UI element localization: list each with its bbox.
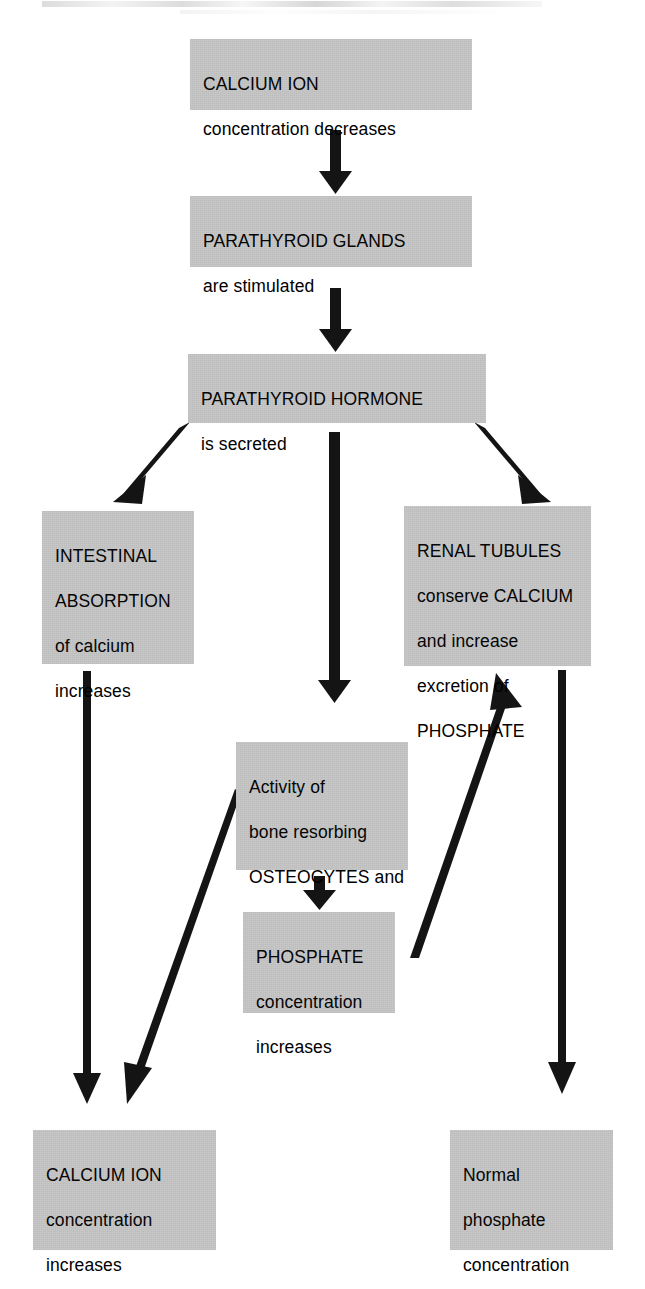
node-line: excretion of [417, 675, 591, 698]
node-parathyroid-glands-are-stimulated: PARATHYROID GLANDS are stimulated [190, 196, 472, 267]
node-line: are stimulated [203, 275, 472, 298]
node-line: concentration [46, 1209, 216, 1232]
flowchart-page: CALCIUM ION concentration decreases PARA… [0, 0, 645, 1289]
node-intestinal-absorption-of-calcium-increases: INTESTINAL ABSORPTION of calcium increas… [42, 511, 194, 664]
node-renal-tubules-conserve-calcium: RENAL TUBULES conserve CALCIUM and incre… [404, 506, 591, 666]
node-normal-phosphate-concentration-is-maintained: Normal phosphate concentration is mainta… [450, 1130, 613, 1250]
node-line: and increase [417, 630, 591, 653]
connector-pth-to-intestinal [113, 422, 190, 504]
node-line: phosphate [463, 1209, 613, 1232]
node-line: PARATHYROID GLANDS [203, 230, 472, 253]
node-line: PHOSPHATE [256, 946, 395, 969]
node-calcium-ion-concentration-decreases: CALCIUM ION concentration decreases [190, 39, 472, 110]
node-line: increases [55, 680, 194, 703]
connector-intestinal-to-calcium-increase [73, 671, 101, 1104]
node-line: concentration decreases [203, 118, 472, 141]
node-line: concentration [463, 1254, 613, 1277]
node-line: Activity of [249, 776, 408, 799]
node-calcium-ion-concentration-increases: CALCIUM ION concentration increases [33, 1130, 216, 1250]
node-line: CALCIUM ION [203, 73, 472, 96]
node-parathyroid-hormone-is-secreted: PARATHYROID HORMONE is secreted [188, 354, 486, 423]
node-line: RENAL TUBULES [417, 540, 591, 563]
node-line: is secreted [201, 433, 486, 456]
connector-osteocytes-to-calcium-increase [124, 789, 241, 1104]
node-line: Normal [463, 1164, 613, 1187]
node-line: OSTEOCYTES and [249, 866, 408, 889]
node-line: of calcium [55, 635, 194, 658]
node-phosphate-concentration-increases: PHOSPHATE concentration increases [243, 912, 395, 1013]
node-line: PHOSPHATE [417, 720, 591, 743]
node-line: increases [256, 1036, 395, 1059]
node-line: CALCIUM ION [46, 1164, 216, 1187]
node-line: concentration [256, 991, 395, 1014]
node-line: increases [46, 1254, 216, 1277]
node-line: PARATHYROID HORMONE [201, 388, 486, 411]
node-line: ABSORPTION [55, 590, 194, 613]
node-line: INTESTINAL [55, 545, 194, 568]
node-line: bone resorbing [249, 821, 408, 844]
node-line: conserve CALCIUM [417, 585, 591, 608]
node-bone-resorbing-osteocytes-osteoclasts: Activity of bone resorbing OSTEOCYTES an… [236, 742, 408, 870]
